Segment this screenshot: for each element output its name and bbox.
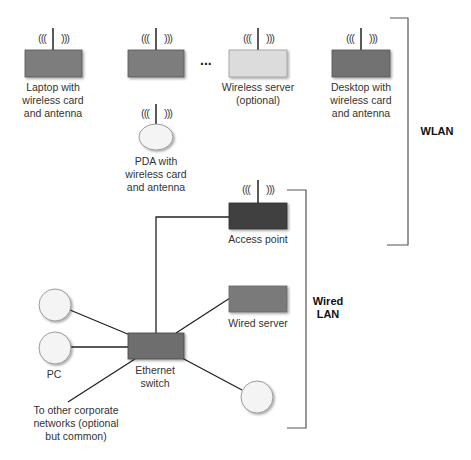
link-switch-to-access-point	[156, 217, 229, 333]
pda-node[interactable]	[139, 124, 173, 150]
laptop-node[interactable]	[25, 50, 82, 77]
wireless-signal-icon: (((	[242, 183, 250, 195]
wireless-signal-icon: (((	[141, 107, 149, 119]
wired-lan-bracket-label: Wired LAN	[313, 295, 343, 321]
link-switch-to-corporate-networks	[68, 359, 135, 402]
wireless-signal-icon: )))	[164, 32, 172, 44]
device-node[interactable]	[128, 50, 184, 77]
link-switch-to-client	[182, 358, 242, 390]
wired-server-node[interactable]	[229, 286, 287, 312]
wireless-signal-icon: )))	[164, 107, 172, 119]
link-switch-to-wired-server	[176, 298, 230, 333]
diagram-graphics	[0, 0, 471, 460]
ethernet-switch-node[interactable]	[128, 333, 184, 359]
pc-label: PC	[47, 368, 62, 381]
wireless-signal-icon: (((	[141, 32, 149, 44]
wlan-wired-lan-diagram: ((( ))) ((( ))) ((( ))) ((( ))) ((( ))) …	[0, 0, 471, 460]
pda-label: PDA with wireless card and antenna	[125, 155, 186, 194]
wireless-signal-icon: (((	[346, 32, 354, 44]
pc-2-node[interactable]	[39, 332, 71, 364]
access-point-node[interactable]	[229, 203, 287, 229]
wlan-bracket-label: WLAN	[421, 125, 454, 138]
wireless-server-label: Wireless server (optional)	[222, 81, 294, 107]
wireless-signal-icon: (((	[38, 32, 46, 44]
desktop-node[interactable]	[332, 50, 390, 77]
pc-1-node[interactable]	[39, 289, 71, 321]
wireless-server-node[interactable]	[229, 50, 287, 77]
ethernet-switch-label: Ethernet switch	[135, 364, 175, 390]
more-devices-ellipsis: ...	[200, 55, 212, 65]
wireless-signal-icon: )))	[266, 183, 274, 195]
wired-server-label: Wired server	[228, 317, 288, 330]
link-switch-to-pc-1	[70, 310, 130, 335]
wireless-signal-icon: )))	[369, 32, 377, 44]
access-point-label: Access point	[228, 233, 288, 246]
client-node[interactable]	[241, 381, 273, 413]
wireless-signal-icon: )))	[61, 32, 69, 44]
wireless-signal-icon: (((	[243, 32, 251, 44]
wireless-signal-icon: )))	[266, 32, 274, 44]
corporate-networks-label: To other corporate networks (optional bu…	[33, 404, 118, 443]
wired-lan-bracket	[287, 190, 306, 428]
desktop-label: Desktop with wireless card and antenna	[330, 81, 391, 120]
laptop-label: Laptop with wireless card and antenna	[22, 81, 83, 120]
